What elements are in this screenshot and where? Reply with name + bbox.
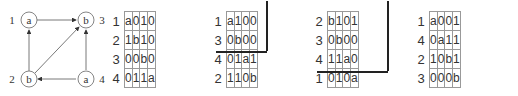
matrix-cell: 1 <box>234 69 242 88</box>
matrix-cell: 1 <box>453 12 461 31</box>
matrix-cell: a <box>227 12 235 31</box>
matrix-cell: 1 <box>351 12 359 31</box>
matrix-grid: a1000b0001a1110b <box>226 11 258 88</box>
matrix-cell: 0 <box>328 31 336 50</box>
matrix-cell: a <box>125 12 133 31</box>
matrix-cell: 0 <box>148 50 156 69</box>
matrix-cell: 0 <box>445 69 453 88</box>
row-label: 1 <box>110 12 122 31</box>
matrix-cell: 0 <box>132 12 140 31</box>
matrix-cell: a <box>148 69 156 88</box>
svg-text:b: b <box>26 73 32 85</box>
row-label: 2 <box>313 12 325 31</box>
matrix-cell: b <box>328 12 336 31</box>
matrix-cell: 0 <box>437 50 445 69</box>
matrix-cell: 1 <box>453 31 461 50</box>
row-label: 2 <box>110 31 122 50</box>
matrix-cell: b <box>335 31 343 50</box>
matrix-cell: 0 <box>351 50 359 69</box>
matrix-cell: 1 <box>234 12 242 31</box>
matrix-cell: 0 <box>445 12 453 31</box>
matrix-cell: 1 <box>328 50 336 69</box>
matrix-grid: b1010b0011a0010a <box>327 11 359 88</box>
matrix-cell: 0 <box>437 69 445 88</box>
matrix-cell: 0 <box>437 12 445 31</box>
matrix-cell: 1 <box>140 31 148 50</box>
matrix-cell: a <box>437 31 445 50</box>
matrix-cell: 1 <box>132 69 140 88</box>
matrix-cell: b <box>453 69 461 88</box>
matrix-cell: b <box>445 50 453 69</box>
row-label: 3 <box>212 31 224 50</box>
matrix-cell: 1 <box>453 50 461 69</box>
matrix-cell: 0 <box>125 69 133 88</box>
row-label: 2 <box>212 69 224 88</box>
matrix-cell: 1 <box>335 50 343 69</box>
matrix-grid: a0010a1110b1000b <box>429 11 461 88</box>
partition-line-horizontal <box>317 71 388 73</box>
matrix-cell: 0 <box>250 12 258 31</box>
svg-text:a: a <box>84 73 89 85</box>
matrix-cell: 0 <box>430 69 438 88</box>
row-label: 3 <box>313 31 325 50</box>
matrix-cell: b <box>140 50 148 69</box>
matrix-cell: a <box>343 50 351 69</box>
matrix-cell: 0 <box>250 31 258 50</box>
partition-line-horizontal <box>216 51 267 53</box>
svg-text:a: a <box>27 14 32 26</box>
row-label: 4 <box>313 50 325 69</box>
row-label: 3 <box>110 50 122 69</box>
matrix-cell: 0 <box>242 69 250 88</box>
matrix-cell: 0 <box>125 50 133 69</box>
matrix-cell: 0 <box>148 31 156 50</box>
matrix-cell: 1 <box>140 12 148 31</box>
matrix-cell: 1 <box>227 69 235 88</box>
matrix-cell: b <box>132 31 140 50</box>
matrix-cell: 0 <box>148 12 156 31</box>
matrix-cell: 1 <box>430 50 438 69</box>
directed-graph: a1 b3 b2 a4 <box>0 0 110 96</box>
row-label: 4 <box>415 31 427 50</box>
matrix-cell: 0 <box>242 31 250 50</box>
row-label: 4 <box>212 50 224 69</box>
matrix-cell: 0 <box>227 31 235 50</box>
matrix-cell: 0 <box>242 12 250 31</box>
row-label: 1 <box>415 12 427 31</box>
row-label: 4 <box>110 69 122 88</box>
matrix-cell: b <box>250 69 258 88</box>
row-label: 3 <box>415 69 427 88</box>
svg-text:4: 4 <box>99 73 105 85</box>
partition-line-vertical <box>387 1 389 71</box>
matrix-cell: 0 <box>343 31 351 50</box>
svg-text:2: 2 <box>9 73 15 85</box>
matrix-cell: 0 <box>132 50 140 69</box>
matrix-cell: 0 <box>430 31 438 50</box>
matrix-cell: 0 <box>343 12 351 31</box>
svg-text:1: 1 <box>9 14 15 26</box>
matrix-cell: 0 <box>351 31 359 50</box>
matrix-cell: b <box>234 31 242 50</box>
matrix-grid: a0101b1000b0011a <box>124 11 156 88</box>
row-label: 2 <box>415 50 427 69</box>
matrix-cell: 1 <box>445 31 453 50</box>
svg-text:3: 3 <box>99 14 105 26</box>
partition-line-vertical <box>266 1 268 51</box>
matrix-cell: 1 <box>125 31 133 50</box>
matrix-cell: 1 <box>335 12 343 31</box>
matrix-cell: 1 <box>140 69 148 88</box>
matrix-cell: a <box>430 12 438 31</box>
row-label: 1 <box>212 12 224 31</box>
svg-text:b: b <box>83 14 89 26</box>
